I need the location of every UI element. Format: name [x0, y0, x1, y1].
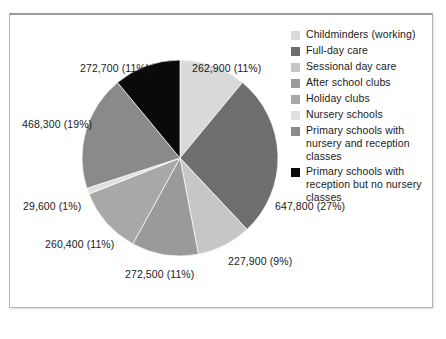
slice-label-nursery-schools: 29,600 (1%): [23, 200, 81, 212]
legend-item-label: Primary schools with nursery and recepti…: [306, 124, 435, 164]
legend-item: Primary schools with reception but no nu…: [291, 165, 435, 205]
legend-item: Sessional day care: [291, 60, 435, 75]
legend-swatch-icon: [291, 79, 300, 88]
legend-item-label: Holiday clubs: [306, 92, 370, 105]
legend-swatch-icon: [291, 47, 300, 56]
legend-swatch-icon: [291, 95, 300, 104]
legend-swatch-icon: [291, 168, 300, 177]
slice-label-primary-nursery-reception: 468,300 (19%): [22, 118, 92, 130]
legend-item: After school clubs: [291, 76, 435, 91]
legend-swatch-icon: [291, 31, 300, 40]
legend-item: Full-day care: [291, 44, 435, 59]
legend-item-label: Sessional day care: [306, 60, 397, 73]
slice-label-sessional-day-care: 227,900 (9%): [228, 255, 292, 267]
slice-label-childminders: 262,900 (11%): [192, 62, 261, 74]
legend-item: Holiday clubs: [291, 92, 435, 107]
legend-item-label: Nursery schools: [306, 108, 383, 121]
slice-label-after-school-clubs: 272,500 (11%): [125, 268, 194, 280]
pie-chart-svg: [80, 58, 280, 258]
legend-item: Primary schools with nursery and recepti…: [291, 124, 435, 164]
legend-item: Nursery schools: [291, 108, 435, 123]
legend-item-label: Childminders (working): [306, 28, 416, 41]
slice-label-primary-reception-only: 272,700 (11%): [80, 62, 149, 74]
legend-swatch-icon: [291, 111, 300, 120]
figure-container: 262,900 (11%) 272,700 (11%) 468,300 (19%…: [0, 0, 446, 339]
legend-swatch-icon: [291, 63, 300, 72]
legend-swatch-icon: [291, 127, 300, 136]
legend-item-label: After school clubs: [306, 76, 391, 89]
legend-item-label: Primary schools with reception but no nu…: [306, 165, 435, 205]
legend-item: Childminders (working): [291, 28, 435, 43]
chart-legend: Childminders (working)Full-day careSessi…: [291, 28, 435, 205]
slice-label-holiday-clubs: 260,400 (11%): [45, 238, 114, 250]
legend-item-label: Full-day care: [306, 44, 368, 57]
